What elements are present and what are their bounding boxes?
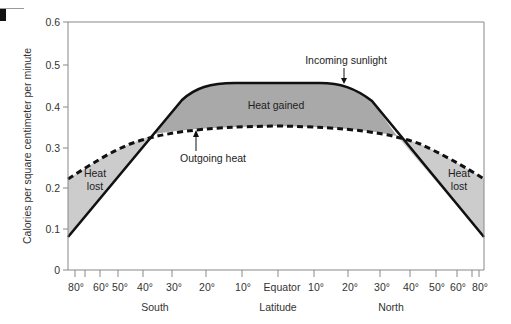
x-tick-label: 50° [112, 281, 128, 293]
x-tick-label: 30° [374, 281, 390, 293]
y-tick-label: 0.1 [45, 223, 60, 235]
north-label: North [378, 301, 404, 313]
x-tick-label: 40° [137, 281, 153, 293]
outgoing-heat-label: Outgoing heat [180, 152, 246, 164]
x-tick-label: 20° [199, 281, 215, 293]
x-tick-label: 10° [235, 281, 251, 293]
chart-figure: 0.6 0.5 0.4 0.3 0.2 0.1 0 80° 60° 50° 40… [0, 0, 511, 324]
heat-lost-north-label-1: Heat [448, 167, 470, 179]
y-tick-labels: 0.6 0.5 0.4 0.3 0.2 0.1 0 [45, 16, 60, 276]
y-axis-title: Calories per square centimeter per minut… [21, 48, 33, 244]
x-tick-label: 40° [403, 281, 419, 293]
heat-gained-label: Heat gained [248, 99, 305, 111]
y-tick-label: 0.5 [45, 59, 60, 71]
x-tick-label: 60° [450, 281, 466, 293]
x-tick-label: 30° [166, 281, 182, 293]
y-tick-label: 0.3 [45, 142, 60, 154]
outgoing-arrow-icon [193, 130, 199, 151]
south-label: South [141, 301, 169, 313]
x-tick-labels: 80° 60° 50° 40° 30° 20° 10° Equator 10° … [68, 281, 488, 293]
x-tick-label: 10° [308, 281, 324, 293]
y-ticks [63, 22, 68, 270]
x-tick-label: 80° [472, 281, 488, 293]
heat-lost-south-label-2: lost [87, 180, 103, 192]
heat-lost-north-label-2: lost [451, 180, 467, 192]
heat-lost-south-label-1: Heat [84, 167, 106, 179]
y-tick-label: 0.2 [45, 182, 60, 194]
incoming-sunlight-label: Incoming sunlight [305, 54, 387, 66]
y-tick-label: 0 [54, 264, 60, 276]
x-tick-label: 80° [68, 281, 84, 293]
incoming-arrow-icon [341, 68, 347, 84]
x-tick-label: Equator [264, 281, 301, 293]
x-tick-label: 60° [93, 281, 109, 293]
x-axis-title: Latitude [259, 301, 297, 313]
x-ticks [75, 270, 479, 277]
y-tick-label: 0.6 [45, 16, 60, 28]
y-tick-label: 0.4 [45, 101, 60, 113]
x-tick-label: 20° [342, 281, 358, 293]
x-tick-label: 50° [429, 281, 445, 293]
